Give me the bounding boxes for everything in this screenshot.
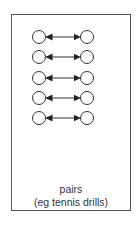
pair-row: [33, 92, 94, 105]
pair-row: [33, 51, 94, 64]
player-circle-right: [81, 92, 94, 105]
player-circle-right: [81, 112, 94, 125]
pair-row: [33, 72, 94, 85]
player-circle-left: [33, 72, 46, 85]
player-circle-left: [33, 112, 46, 125]
player-circle-left: [33, 31, 46, 44]
player-circle-left: [33, 92, 46, 105]
player-circle-right: [81, 72, 94, 85]
player-circle-left: [33, 51, 46, 64]
pair-row: [33, 112, 94, 125]
player-circle-right: [81, 31, 94, 44]
player-circle-right: [81, 51, 94, 64]
pair-row: [33, 31, 94, 44]
caption-title: pairs: [11, 183, 131, 196]
caption-subtitle: (eg tennis drills): [11, 196, 131, 209]
